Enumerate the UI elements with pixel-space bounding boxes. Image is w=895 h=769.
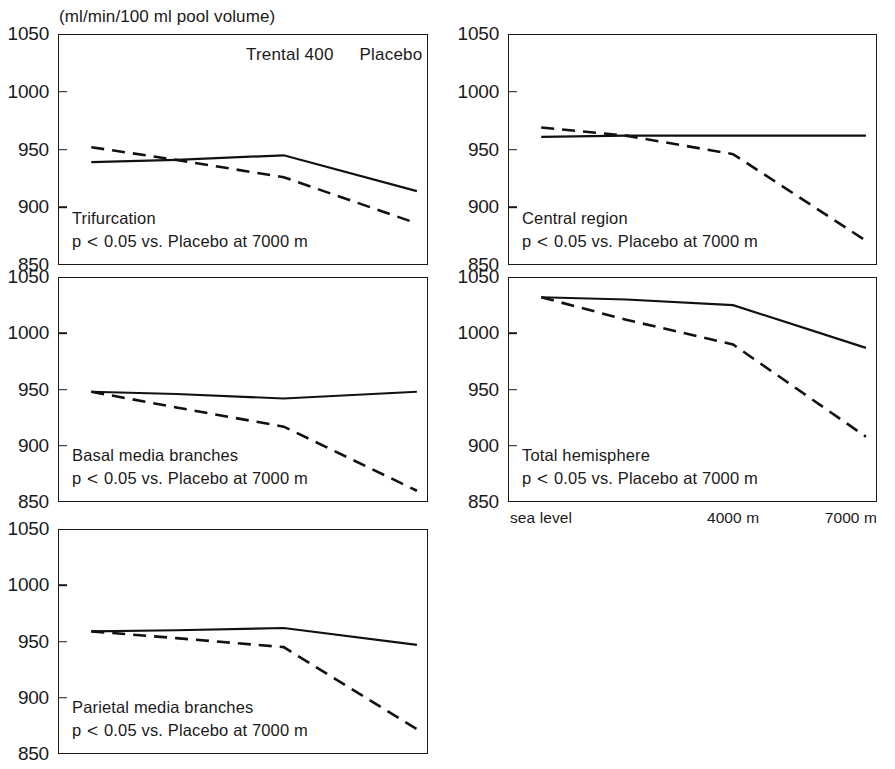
y-tick-label-1000: 1000 bbox=[458, 81, 499, 103]
panel-caption: Central region p < 0.05 vs. Placebo at 7… bbox=[522, 207, 758, 253]
y-tick-label-1000: 1000 bbox=[8, 574, 49, 596]
series-line-trental-400 bbox=[91, 392, 417, 399]
y-tick-label-900: 900 bbox=[468, 435, 499, 457]
y-tick-label-1050: 1050 bbox=[8, 518, 49, 540]
panel-note: p < 0.05 vs. Placebo at 7000 m bbox=[72, 467, 308, 490]
y-tick-label-1000: 1000 bbox=[8, 322, 49, 344]
y-tick-mark-1000 bbox=[58, 584, 67, 586]
y-tick-label-850: 850 bbox=[468, 491, 499, 513]
panel-caption: Trifurcation p < 0.05 vs. Placebo at 700… bbox=[72, 207, 308, 253]
y-tick-mark-900 bbox=[508, 206, 517, 208]
y-tick-label-950: 950 bbox=[18, 379, 49, 401]
y-tick-mark-950 bbox=[508, 389, 517, 391]
figure-canvas: (ml/min/100 ml pool volume) Trental 400P… bbox=[0, 0, 895, 769]
panel-caption: Total hemisphere p < 0.05 vs. Placebo at… bbox=[522, 444, 758, 490]
panel-basal-media-branches: Basal media branches p < 0.05 vs. Placeb… bbox=[58, 277, 428, 502]
y-tick-label-900: 900 bbox=[18, 435, 49, 457]
y-tick-mark-1000 bbox=[508, 91, 517, 93]
legend-control-label: Placebo bbox=[360, 45, 423, 64]
y-tick-mark-1000 bbox=[58, 91, 67, 93]
y-tick-mark-900 bbox=[58, 445, 67, 447]
x-tick-7000m: 7000 m bbox=[825, 509, 877, 527]
panel-note: p < 0.05 vs. Placebo at 7000 m bbox=[522, 230, 758, 253]
panel-caption: Basal media branches p < 0.05 vs. Placeb… bbox=[72, 444, 308, 490]
y-tick-mark-950 bbox=[58, 641, 67, 643]
y-tick-label-900: 900 bbox=[18, 687, 49, 709]
y-tick-label-950: 950 bbox=[468, 379, 499, 401]
y-tick-label-1050: 1050 bbox=[458, 23, 499, 45]
y-tick-label-1050: 1050 bbox=[8, 266, 49, 288]
panel-title: Parietal media branches bbox=[72, 696, 308, 719]
y-tick-mark-950 bbox=[58, 389, 67, 391]
y-tick-mark-1000 bbox=[508, 332, 517, 334]
y-tick-label-1050: 1050 bbox=[458, 266, 499, 288]
y-tick-label-950: 950 bbox=[18, 631, 49, 653]
series-line-placebo bbox=[541, 297, 866, 437]
y-tick-label-900: 900 bbox=[468, 196, 499, 218]
y-tick-mark-900 bbox=[58, 206, 67, 208]
panel-title: Basal media branches bbox=[72, 444, 308, 467]
panel-note: p < 0.05 vs. Placebo at 7000 m bbox=[522, 467, 758, 490]
y-tick-mark-1000 bbox=[58, 332, 67, 334]
panel-note: p < 0.05 vs. Placebo at 7000 m bbox=[72, 719, 308, 742]
panel-title: Central region bbox=[522, 207, 758, 230]
y-tick-label-1000: 1000 bbox=[8, 81, 49, 103]
panel-parietal-media-branches: Parietal media branches p < 0.05 vs. Pla… bbox=[58, 529, 428, 754]
panel-central-region: Central region p < 0.05 vs. Placebo at 7… bbox=[508, 34, 877, 265]
y-tick-mark-900 bbox=[58, 697, 67, 699]
series-line-trental-400 bbox=[541, 297, 866, 348]
y-tick-label-1000: 1000 bbox=[458, 322, 499, 344]
x-tick-sea-level: sea level bbox=[510, 509, 572, 527]
panel-title: Trifurcation bbox=[72, 207, 308, 230]
units-label: (ml/min/100 ml pool volume) bbox=[59, 7, 275, 27]
panel-note: p < 0.05 vs. Placebo at 7000 m bbox=[72, 230, 308, 253]
legend: Trental 400Placebo bbox=[246, 45, 422, 65]
y-tick-mark-900 bbox=[508, 445, 517, 447]
y-tick-label-950: 950 bbox=[468, 139, 499, 161]
y-tick-mark-950 bbox=[508, 149, 517, 151]
series-line-trental-400 bbox=[91, 155, 417, 191]
panel-title: Total hemisphere bbox=[522, 444, 758, 467]
legend-treatment-label: Trental 400 bbox=[246, 45, 334, 64]
y-tick-label-950: 950 bbox=[18, 139, 49, 161]
panel-caption: Parietal media branches p < 0.05 vs. Pla… bbox=[72, 696, 308, 742]
y-tick-label-850: 850 bbox=[18, 491, 49, 513]
y-tick-mark-950 bbox=[58, 149, 67, 151]
y-tick-label-900: 900 bbox=[18, 196, 49, 218]
x-tick-4000m: 4000 m bbox=[707, 509, 759, 527]
panel-total-hemisphere: Total hemisphere p < 0.05 vs. Placebo at… bbox=[508, 277, 877, 502]
panel-trifurcation: Trental 400Placebo Trifurcation p < 0.05… bbox=[58, 34, 428, 265]
series-line-trental-400 bbox=[541, 136, 866, 137]
y-tick-label-850: 850 bbox=[18, 743, 49, 765]
y-tick-label-1050: 1050 bbox=[8, 23, 49, 45]
